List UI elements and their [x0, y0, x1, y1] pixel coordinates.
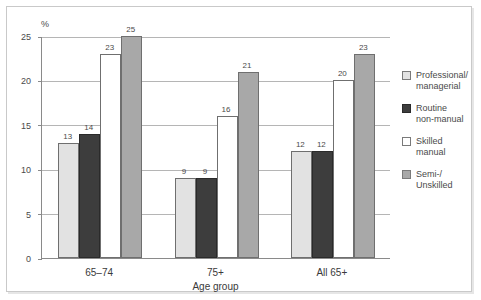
legend-item: Professional/ managerial	[402, 70, 474, 92]
bar-value-label: 12	[305, 141, 338, 149]
legend-swatch-icon	[402, 170, 411, 179]
bar	[175, 178, 196, 258]
bar	[196, 178, 217, 258]
legend-label: Professional/ managerial	[416, 70, 468, 92]
bar	[100, 54, 121, 258]
bar	[333, 80, 354, 258]
bar-value-label: 14	[72, 124, 105, 132]
legend-label: Skilled manual	[416, 136, 446, 158]
legend-label: Semi-/ Unskilled	[416, 169, 453, 191]
bar-value-label: 9	[189, 168, 222, 176]
y-axis-tick-label: 15	[0, 122, 31, 131]
bar	[217, 116, 238, 258]
x-axis-group-label: 65–74	[41, 267, 157, 278]
y-axis-tick	[38, 37, 42, 38]
bar	[291, 151, 312, 258]
y-axis-tick-label: 10	[0, 166, 31, 175]
legend-label: Routine non-manual	[416, 103, 464, 125]
legend-swatch-icon	[402, 104, 411, 113]
bar	[354, 54, 375, 258]
bar	[58, 143, 79, 258]
gridline	[42, 37, 390, 38]
x-axis-title: Age group	[157, 281, 273, 292]
bar-value-label: 23	[347, 44, 380, 52]
bar-value-label: 23	[93, 44, 126, 52]
bar-value-label: 21	[231, 62, 264, 70]
chart-figure: % 0510152025 1314232599162112122023 65–7…	[0, 0, 481, 300]
y-axis-tick	[38, 125, 42, 126]
legend-swatch-icon	[402, 137, 411, 146]
y-axis-tick	[38, 259, 42, 260]
chart-legend: Professional/ managerialRoutine non-manu…	[402, 70, 474, 202]
bar	[79, 134, 100, 258]
legend-item: Semi-/ Unskilled	[402, 169, 474, 191]
y-axis-tick	[38, 214, 42, 215]
y-axis-tick-label: 0	[0, 255, 31, 264]
y-axis-tick	[38, 81, 42, 82]
bar-value-label: 20	[326, 70, 359, 78]
y-axis-tick-label: 20	[0, 77, 31, 86]
legend-item: Skilled manual	[402, 136, 474, 158]
y-axis-tick-label: 5	[0, 211, 31, 220]
bar-value-label: 25	[114, 26, 147, 34]
y-axis-tick	[38, 170, 42, 171]
bar-value-label: 13	[51, 133, 84, 141]
bar	[238, 72, 259, 258]
x-axis-group-label: 75+	[157, 267, 273, 278]
x-axis-group-label: All 65+	[274, 267, 390, 278]
y-axis-tick-label: 25	[0, 33, 31, 42]
bar	[121, 36, 142, 258]
y-axis-unit-label: %	[41, 20, 49, 29]
bar	[312, 151, 333, 258]
legend-item: Routine non-manual	[402, 103, 474, 125]
bar-value-label: 16	[210, 106, 243, 114]
legend-swatch-icon	[402, 71, 411, 80]
